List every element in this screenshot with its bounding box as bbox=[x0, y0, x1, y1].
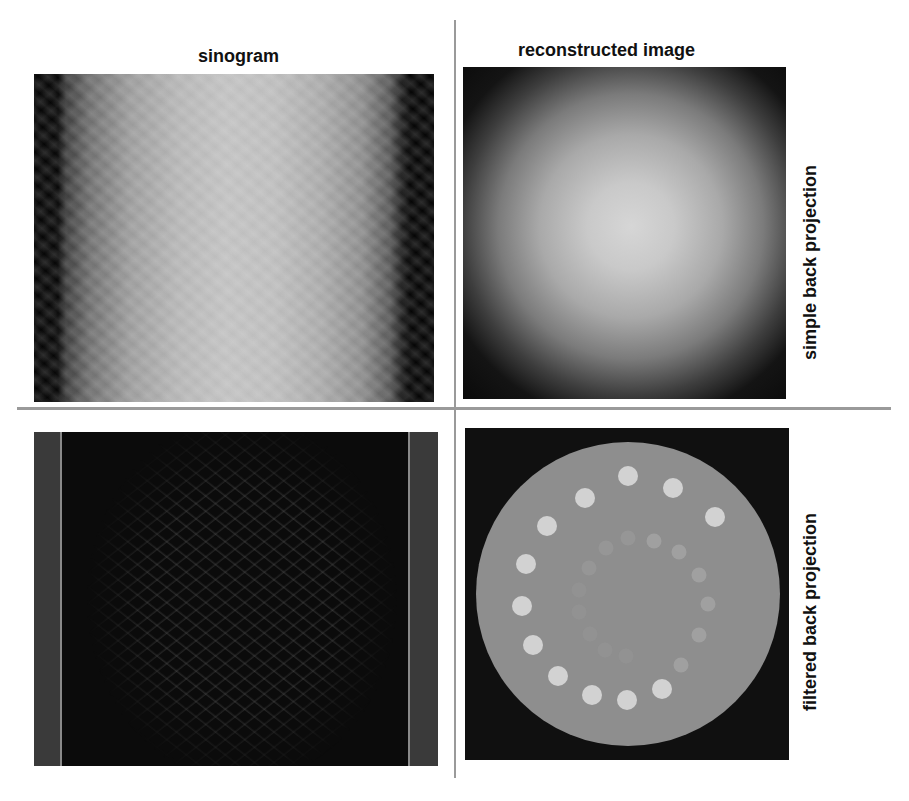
phantom-outer-dot bbox=[575, 488, 595, 508]
phantom-outer-dot bbox=[537, 516, 557, 536]
simple-back-projection-image bbox=[463, 67, 786, 399]
filtered-sinogram-left-edge bbox=[34, 432, 62, 766]
row-label-filtered-back-projection: filtered back projection bbox=[800, 513, 821, 711]
phantom-inner-dot bbox=[599, 541, 614, 556]
column-title-reconstructed-image: reconstructed image bbox=[518, 40, 695, 61]
phantom-outer-dot bbox=[663, 478, 683, 498]
phantom-inner-dot bbox=[619, 649, 634, 664]
horizontal-divider bbox=[17, 407, 891, 410]
filtered-sinogram-image bbox=[34, 432, 438, 766]
sinogram-shading bbox=[34, 74, 434, 402]
phantom-outer-dot bbox=[548, 666, 568, 686]
phantom-inner-dot bbox=[621, 531, 636, 546]
phantom-outer-dot bbox=[652, 679, 672, 699]
phantom-outer-dot bbox=[705, 507, 725, 527]
filtered-back-projection-image bbox=[465, 428, 789, 760]
phantom-inner-dot bbox=[598, 643, 613, 658]
phantom-inner-dot bbox=[572, 583, 587, 598]
phantom-outer-dot bbox=[618, 466, 638, 486]
filtered-sinogram-sinusoids bbox=[62, 432, 408, 766]
phantom-outer-dot bbox=[582, 685, 602, 705]
phantom-inner-dot bbox=[692, 628, 707, 643]
phantom-inner-dot bbox=[583, 627, 598, 642]
phantom-outer-dot bbox=[617, 690, 637, 710]
phantom-inner-dot bbox=[582, 561, 597, 576]
phantom-disk bbox=[476, 442, 780, 746]
phantom-inner-dot bbox=[701, 597, 716, 612]
sinogram-image bbox=[34, 74, 434, 402]
phantom-inner-dot bbox=[672, 545, 687, 560]
phantom-inner-dot bbox=[692, 568, 707, 583]
column-title-sinogram: sinogram bbox=[198, 46, 279, 67]
phantom-inner-dot bbox=[674, 658, 689, 673]
row-label-simple-back-projection: simple back projection bbox=[800, 165, 821, 360]
phantom-inner-dot bbox=[572, 605, 587, 620]
filtered-sinogram-right-edge bbox=[408, 432, 438, 766]
phantom-outer-dot bbox=[523, 635, 543, 655]
phantom-outer-dot bbox=[512, 596, 532, 616]
phantom-inner-dot bbox=[647, 534, 662, 549]
vertical-divider bbox=[454, 20, 456, 778]
phantom-outer-dot bbox=[516, 554, 536, 574]
